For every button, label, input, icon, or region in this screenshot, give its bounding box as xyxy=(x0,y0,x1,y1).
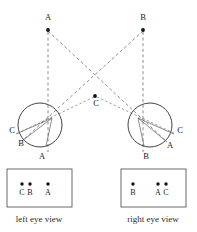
left-eye-label-C: C xyxy=(9,125,15,135)
right-eye-view-panel: B A C right eye view xyxy=(121,169,186,224)
left-view-dot-B xyxy=(28,182,31,185)
object-B: B xyxy=(140,12,146,32)
left-view-dot-A xyxy=(46,182,49,185)
object-B-label: B xyxy=(140,12,146,22)
right-view-label-B: B xyxy=(130,188,135,197)
ray-A-to-right-eye xyxy=(48,31,166,141)
left-view-label-C: C xyxy=(19,188,24,197)
right-view-dot-C xyxy=(164,182,167,185)
object-B-dot xyxy=(141,28,145,32)
right-view-label-C: C xyxy=(163,188,168,197)
rays-from-B xyxy=(22,31,143,152)
object-A: A xyxy=(45,12,52,32)
object-A-dot xyxy=(46,28,50,32)
object-A-label: A xyxy=(45,12,52,22)
rays-from-A xyxy=(48,31,166,152)
right-view-dot-A xyxy=(156,182,159,185)
left-view-label-B: B xyxy=(27,188,32,197)
left-eye-view-caption: left eye view xyxy=(16,214,63,224)
left-view-dot-C xyxy=(20,182,23,185)
left-eye-circle xyxy=(18,103,62,147)
right-view-label-A: A xyxy=(155,188,161,197)
left-eye-view-box xyxy=(7,169,72,207)
figure-canvas: A B C C B A C A B C B xyxy=(0,0,197,232)
right-view-dot-B xyxy=(131,182,134,185)
ray-C-to-right-eye xyxy=(97,97,176,134)
left-eye-label-B: B xyxy=(18,138,24,148)
right-eye-label-C: C xyxy=(177,125,183,135)
right-eye-view-caption: right eye view xyxy=(127,214,179,224)
object-C-label: C xyxy=(93,98,99,108)
left-eye-view-panel: C B A left eye view xyxy=(7,169,72,224)
object-C: C xyxy=(93,94,99,108)
right-eye-label-A: A xyxy=(167,140,174,150)
left-eye-label-A: A xyxy=(39,151,46,161)
right-eye-label-B: B xyxy=(143,151,149,161)
binocular-disparity-diagram: A B C C B A C A B C B xyxy=(0,0,197,232)
left-view-label-A: A xyxy=(45,188,51,197)
ray-B-to-left-eye xyxy=(22,31,143,141)
